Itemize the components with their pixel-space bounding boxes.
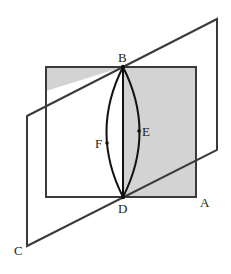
point-f [105, 141, 109, 145]
label-b: B [118, 50, 127, 65]
point-e [137, 129, 141, 133]
label-c: C [14, 243, 23, 258]
label-e: E [142, 124, 150, 139]
point-d [121, 195, 125, 199]
diagram-canvas: B D E F A C [0, 0, 231, 274]
point-b [121, 65, 125, 69]
label-d: D [118, 201, 127, 216]
label-a: A [200, 195, 210, 210]
geometry-diagram: B D E F A C [0, 0, 231, 274]
label-f: F [95, 136, 102, 151]
